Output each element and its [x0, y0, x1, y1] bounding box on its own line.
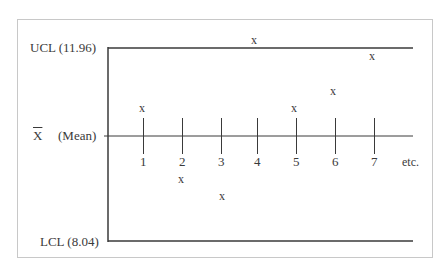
- tick-label: 5: [293, 154, 300, 170]
- tick-label: 6: [332, 154, 339, 170]
- tick-label: 7: [371, 154, 378, 170]
- tick-label: 3: [218, 154, 225, 170]
- data-point-marker: x: [369, 49, 375, 64]
- data-point-marker: x: [219, 189, 225, 204]
- data-point-marker: x: [330, 84, 336, 99]
- data-point-marker: x: [291, 101, 297, 116]
- etc-label: etc.: [402, 155, 419, 170]
- lcl-label: LCL (8.04): [40, 234, 99, 250]
- ucl-label: UCL (11.96): [30, 40, 96, 56]
- mean-label: (Mean): [58, 128, 96, 144]
- data-point-marker: x: [139, 101, 145, 116]
- mean-symbol: X: [33, 128, 42, 144]
- data-point-marker: x: [178, 172, 184, 187]
- data-point-marker: x: [251, 33, 257, 48]
- tick-label: 2: [179, 154, 186, 170]
- tick-label: 4: [254, 154, 261, 170]
- tick-label: 1: [140, 154, 147, 170]
